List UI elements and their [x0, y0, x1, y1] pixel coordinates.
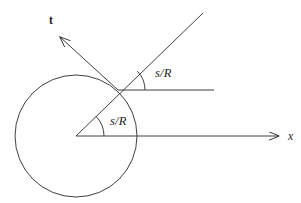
radial-ray-line	[76, 13, 203, 136]
angle-arc-upper	[137, 71, 145, 90]
diagram-svg	[0, 0, 301, 203]
figure-canvas: s/R s/R x t	[0, 0, 301, 203]
angle-label-upper: s/R	[155, 67, 172, 80]
x-axis-label: x	[288, 131, 293, 143]
t-axis-label: t	[49, 15, 53, 27]
angle-arc-lower	[96, 117, 104, 137]
t-axis-arrow-line	[60, 37, 118, 90]
angle-label-lower: s/R	[110, 115, 127, 128]
